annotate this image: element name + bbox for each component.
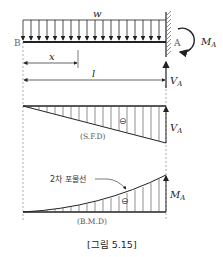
bmd-end-label: MA — [169, 189, 185, 202]
distributed-load — [23, 20, 166, 40]
sfd-label: (S.F.D) — [80, 132, 106, 141]
bmd-label: (B.M.D) — [77, 217, 107, 226]
reaction-label: VA — [170, 75, 182, 88]
parabola-note: 2차 포물선 — [50, 175, 86, 184]
figure-caption: [그림 5.15] — [87, 239, 137, 250]
length-label: l — [92, 68, 95, 79]
fixed-support — [166, 11, 171, 57]
sfd-sign: ⊖ — [119, 116, 127, 126]
x-label: x — [49, 51, 55, 62]
free-end-label: B — [14, 38, 21, 48]
bmd-sign: ⊖ — [121, 196, 129, 206]
fixed-end-label: A — [173, 38, 181, 48]
cantilever-diagram: w B A MA VA x l — [0, 0, 223, 257]
sfd-end-label: VA — [170, 122, 182, 135]
moment-label: MA — [200, 36, 216, 49]
bending-moment-diagram — [23, 175, 166, 212]
load-label: w — [93, 8, 102, 19]
